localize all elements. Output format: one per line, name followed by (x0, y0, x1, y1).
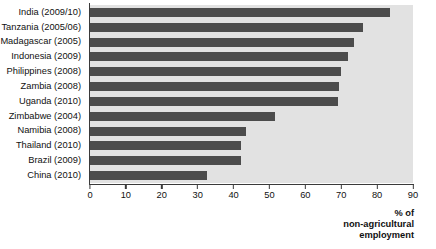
x-axis-tick: 90 (408, 185, 418, 200)
bar (90, 82, 339, 91)
x-axis-tick-label: 10 (121, 191, 131, 200)
bar (90, 112, 275, 121)
x-axis-tick-label: 30 (192, 191, 202, 200)
bar-slot (90, 124, 413, 139)
category-label: Zambia (2008) (0, 79, 86, 94)
bar-chart: India (2009/10) Tanzania (2005/06) Madag… (0, 0, 436, 249)
bar-slot (90, 109, 413, 124)
bar-slot (90, 5, 413, 20)
bar (90, 67, 341, 76)
bar-slot (90, 79, 413, 94)
bar (90, 171, 207, 180)
x-axis-tick-mark (89, 185, 90, 189)
x-axis-tick: 60 (300, 185, 310, 200)
category-label: Brazil (2009) (0, 153, 86, 168)
y-axis-line (89, 3, 90, 185)
x-axis-title-line: % of (234, 208, 414, 219)
x-axis-tick-mark (341, 185, 342, 189)
x-axis-tick-mark (197, 185, 198, 189)
x-axis-title-line: employment (234, 230, 414, 241)
category-label: Philippines (2008) (0, 64, 86, 79)
category-label: Indonesia (2009) (0, 49, 86, 64)
x-axis-tick: 0 (87, 185, 92, 200)
x-axis-tick-mark (305, 185, 306, 189)
bar (90, 141, 241, 150)
bar-slot (90, 20, 413, 35)
x-axis-tick-mark (269, 185, 270, 189)
x-axis: 0102030405060708090 (90, 185, 413, 205)
x-axis-tick-mark (125, 185, 126, 189)
bar (90, 97, 338, 106)
x-axis-tick-mark (412, 185, 413, 189)
x-axis-tick-label: 20 (157, 191, 167, 200)
category-label: China (2010) (0, 168, 86, 183)
x-axis-tick: 20 (157, 185, 167, 200)
plot-area (90, 5, 413, 183)
x-axis-tick: 10 (121, 185, 131, 200)
bar (90, 23, 363, 32)
bar (90, 38, 354, 47)
bar-slot (90, 153, 413, 168)
category-label: Thailand (2010) (0, 138, 86, 153)
x-axis-tick-label: 0 (87, 191, 92, 200)
bar-slot (90, 168, 413, 183)
x-axis-tick: 40 (228, 185, 238, 200)
x-axis-tick-mark (377, 185, 378, 189)
category-label: Tanzania (2005/06) (0, 20, 86, 35)
x-axis-tick-label: 50 (264, 191, 274, 200)
bar-slot (90, 35, 413, 50)
category-label: Uganda (2010) (0, 94, 86, 109)
category-label: Namibia (2008) (0, 124, 86, 139)
bar-slot (90, 138, 413, 153)
bar (90, 8, 390, 17)
bar-slot (90, 64, 413, 79)
x-axis-tick-label: 60 (300, 191, 310, 200)
category-label: India (2009/10) (0, 5, 86, 20)
category-axis: India (2009/10) Tanzania (2005/06) Madag… (0, 5, 86, 183)
x-axis-tick-label: 70 (336, 191, 346, 200)
x-axis-tick: 70 (336, 185, 346, 200)
x-axis-tick-mark (233, 185, 234, 189)
bars-layer (90, 5, 413, 183)
x-axis-title: % of non-agricultural employment (234, 208, 414, 241)
bar (90, 52, 348, 61)
x-axis-tick: 80 (372, 185, 382, 200)
bar-slot (90, 94, 413, 109)
category-label: Zimbabwe (2004) (0, 109, 86, 124)
x-axis-tick: 50 (264, 185, 274, 200)
x-axis-tick: 30 (192, 185, 202, 200)
x-axis-tick-label: 40 (228, 191, 238, 200)
bar-slot (90, 49, 413, 64)
x-axis-tick-label: 80 (372, 191, 382, 200)
bar (90, 127, 246, 136)
x-axis-tick-mark (161, 185, 162, 189)
x-axis-title-line: non-agricultural (234, 219, 414, 230)
category-label: Madagascar (2005) (0, 35, 86, 50)
bar (90, 156, 241, 165)
x-axis-tick-label: 90 (408, 191, 418, 200)
